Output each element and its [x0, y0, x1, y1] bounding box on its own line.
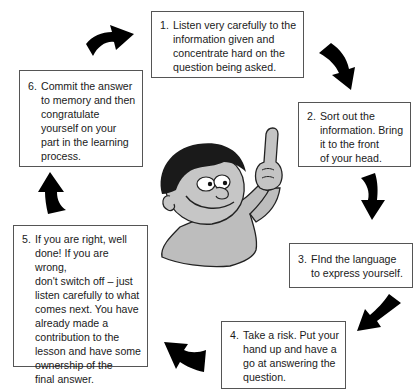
- cartoon-child-pointing-icon: [150, 122, 290, 272]
- step-3-box: 3.FInd the language to express yourself.: [289, 243, 413, 288]
- step-text: If you are right, well done! If you are …: [35, 232, 141, 386]
- step-number: 5.: [22, 232, 35, 386]
- curved-arrow-down-right-icon: [318, 40, 358, 92]
- step-6-box: 6.Commit the answer to memory and then c…: [19, 70, 143, 167]
- curved-arrow-down-icon: [358, 172, 388, 222]
- step-1-box: 1.Listen very carefully to the informati…: [151, 11, 304, 78]
- step-number: 4.: [230, 328, 243, 384]
- step-number: 2.: [307, 109, 320, 165]
- step-number: 6.: [28, 79, 41, 163]
- step-text: Commit the answer to memory and then con…: [41, 79, 136, 163]
- step-text: Sort out the information. Bring it to th…: [320, 109, 404, 165]
- curved-arrow-up-left-icon: [162, 336, 208, 376]
- step-number: 3.: [298, 252, 311, 280]
- step-4-box: 4.Take a risk. Put your hand up and have…: [221, 321, 346, 389]
- step-number: 1.: [160, 18, 173, 74]
- step-2-box: 2.Sort out the information. Bring it to …: [298, 102, 411, 167]
- step-text: FInd the language to express yourself.: [311, 252, 406, 280]
- step-text: Take a risk. Put your hand up and have a…: [243, 328, 339, 384]
- step-5-box: 5.If you are right, well done! If you ar…: [13, 225, 148, 367]
- step-text: Listen very carefully to the information…: [173, 18, 297, 74]
- curved-arrow-right-icon: [84, 22, 136, 58]
- curved-arrow-down-left-icon: [355, 293, 403, 337]
- curved-arrow-up-icon: [34, 170, 70, 216]
